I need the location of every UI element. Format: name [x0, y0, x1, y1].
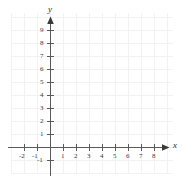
y-tick-label--1: -1	[37, 157, 43, 164]
y-tick-label-4: 4	[40, 92, 44, 99]
y-axis-label: y	[48, 5, 52, 14]
y-tick-label-6: 6	[40, 66, 44, 73]
x-tick-label-7: 7	[139, 153, 143, 160]
y-tick-label-8: 8	[40, 40, 44, 47]
x-tick-label-2: 2	[74, 153, 78, 160]
y-tick-label-3: 3	[40, 105, 44, 112]
y-tick-label-5: 5	[40, 79, 44, 86]
x-axis-arrowhead	[162, 144, 170, 151]
coordinate-plane: -2 -1 1 2 3 4 5 6 7 8 9 8 7 6 5 4 3 2 1 …	[0, 0, 183, 179]
x-tick-label--2: -2	[19, 153, 25, 160]
x-tick-label-5: 5	[113, 153, 117, 160]
y-tick-label-9: 9	[40, 27, 44, 34]
y-tick-label-1: 1	[40, 131, 44, 138]
x-axis-label: x	[173, 141, 177, 150]
y-tick-label-2: 2	[40, 118, 44, 125]
x-tick-label-8: 8	[152, 153, 156, 160]
x-tick-label-4: 4	[100, 153, 104, 160]
x-tick-label-1: 1	[61, 153, 65, 160]
grid-lines	[12, 13, 173, 174]
x-tick-label-3: 3	[87, 153, 91, 160]
y-tick-label-7: 7	[40, 53, 44, 60]
x-tick-label-6: 6	[126, 153, 130, 160]
